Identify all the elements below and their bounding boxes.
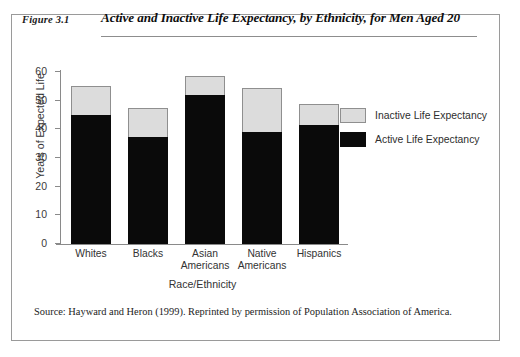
y-tick: 20 — [55, 186, 60, 187]
bar-segment-inactive — [185, 76, 225, 95]
bar-segment-active — [128, 137, 168, 245]
plot-area: 0102030405060 WhitesBlacksAsianAmericans… — [60, 72, 345, 244]
y-tick: 30 — [55, 157, 60, 158]
y-tick: 10 — [55, 214, 60, 215]
bar-blacks — [128, 108, 168, 244]
y-tick: 50 — [55, 100, 60, 101]
figure-number: Figure 3.1 — [22, 14, 70, 25]
y-tick: 40 — [55, 128, 60, 129]
bar-segment-inactive — [71, 86, 111, 115]
legend-label: Active Life Expectancy — [375, 134, 480, 145]
y-tick: 60 — [55, 71, 60, 72]
bar-whites — [71, 86, 111, 244]
bar-asian-americans — [185, 76, 225, 244]
legend-item: Inactive Life Expectancy — [340, 108, 490, 123]
figure-header: Figure 3.1 Active and Inactive Life Expe… — [0, 6, 520, 40]
bar-segment-inactive — [299, 104, 339, 126]
chart-legend: Inactive Life ExpectancyActive Life Expe… — [340, 108, 490, 156]
bar-native-americans — [242, 88, 282, 244]
header-underline-rule — [101, 36, 477, 37]
bar-segment-active — [242, 132, 282, 244]
legend-swatch-inactive — [340, 108, 366, 123]
x-axis-line — [56, 244, 348, 245]
source-note: Source: Hayward and Heron (1999). Reprin… — [34, 306, 452, 317]
y-tick: 0 — [55, 243, 60, 244]
y-tick-label: 10 — [35, 208, 47, 220]
bar-segment-active — [185, 95, 225, 244]
legend-item: Active Life Expectancy — [340, 132, 490, 147]
x-tick-label-line: Americans — [223, 260, 301, 272]
x-axis-title: Race/Ethnicity — [60, 278, 345, 290]
legend-swatch-active — [340, 132, 366, 147]
bar-segment-inactive — [242, 88, 282, 132]
bar-hispanics — [299, 104, 339, 244]
legend-label: Inactive Life Expectancy — [375, 110, 487, 121]
x-tick-label-line: Hispanics — [280, 248, 358, 260]
figure-title: Active and Inactive Life Expectancy, by … — [101, 10, 473, 26]
bar-segment-active — [299, 125, 339, 244]
y-axis-title: Years of Expected Life — [34, 56, 46, 196]
y-tick-label: 0 — [41, 237, 47, 249]
bar-segment-inactive — [128, 108, 168, 137]
bar-segment-active — [71, 115, 111, 244]
x-tick-label: Hispanics — [280, 248, 358, 260]
